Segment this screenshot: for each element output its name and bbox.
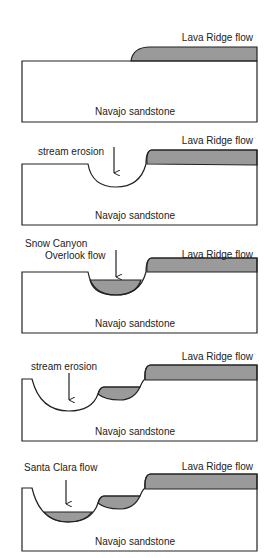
navajo-sandstone-label: Navajo sandstone (60, 536, 210, 547)
lava-ridge-flow-shape (147, 258, 257, 272)
lava-ridge-flow-label: Lava Ridge flow (182, 461, 253, 472)
santa-clara-flow-shape (44, 512, 92, 522)
stream-erosion-label: stream erosion (31, 361, 97, 372)
navajo-sandstone-label: Navajo sandstone (60, 426, 210, 437)
lava-ridge-flow-shape (145, 365, 257, 380)
cross-section-diagram (0, 0, 267, 558)
overlook-flow-label: Overlook flow (45, 250, 106, 261)
lava-ridge-flow-shape (131, 47, 257, 61)
lava-ridge-flow-label: Lava Ridge flow (182, 135, 253, 146)
snow-canyon-overlook-flow-shape (98, 387, 140, 400)
snow-canyon-label: Snow Canyon (25, 238, 87, 249)
lava-ridge-flow-label: Lava Ridge flow (182, 249, 253, 260)
snow-canyon-overlook-flow-shape (98, 496, 140, 509)
lava-ridge-flow-label: Lava Ridge flow (182, 351, 253, 362)
lava-ridge-flow-shape (147, 150, 257, 165)
snow-canyon-overlook-flow-shape (90, 280, 141, 295)
lava-ridge-flow-label: Lava Ridge flow (182, 32, 253, 43)
navajo-sandstone-label: Navajo sandstone (60, 318, 210, 329)
navajo-sandstone-label: Navajo sandstone (60, 106, 210, 117)
navajo-sandstone-label: Navajo sandstone (60, 210, 210, 221)
stream-erosion-label: stream erosion (38, 146, 104, 157)
santa-clara-flow-label: Santa Clara flow (24, 462, 97, 473)
lava-ridge-flow-shape (145, 474, 257, 489)
